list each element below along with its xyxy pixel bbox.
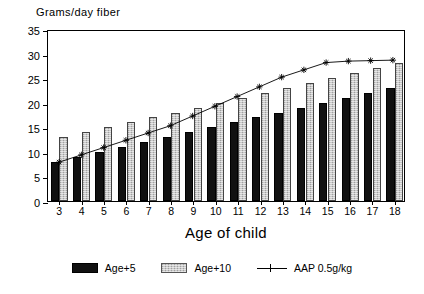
legend-label: AAP 0.5g/kg: [294, 262, 352, 274]
aap-star-marker: [78, 152, 84, 158]
aap-star-marker: [123, 137, 129, 143]
hatched-square-icon: [161, 263, 187, 273]
x-tick-label: 3: [56, 205, 62, 217]
y-tick-mark: [43, 203, 48, 204]
y-tick-label: 35: [28, 25, 40, 37]
x-tick-label: 15: [322, 205, 334, 217]
x-tick-label: 9: [191, 205, 197, 217]
aap-line-path: [59, 60, 393, 162]
aap-star-marker: [56, 159, 62, 165]
y-tick-label: 5: [34, 172, 40, 184]
x-tick-label: 16: [344, 205, 356, 217]
aap-star-marker: [100, 144, 106, 150]
x-tick-label: 10: [210, 205, 222, 217]
aap-star-marker: [234, 93, 240, 99]
x-tick-label: 7: [146, 205, 152, 217]
y-tick-label: 25: [28, 74, 40, 86]
x-tick-label: 4: [79, 205, 85, 217]
x-tick-label: 6: [123, 205, 129, 217]
aap-star-marker: [301, 67, 307, 73]
plot-area: 05101520253035 3456789101112131415161718: [47, 30, 405, 202]
x-tick-label: 5: [101, 205, 107, 217]
x-tick-label: 11: [233, 205, 244, 217]
legend-item[interactable]: AAP 0.5g/kg: [257, 262, 352, 274]
x-tick-label: 12: [255, 205, 267, 217]
y-tick-label: 15: [28, 123, 40, 135]
aap-star-marker: [390, 57, 396, 63]
aap-star-marker: [145, 130, 151, 136]
legend-label: Age+10: [194, 262, 231, 274]
y-tick-label: 20: [28, 99, 40, 111]
aap-star-marker: [189, 113, 195, 119]
x-tick-label: 17: [367, 205, 379, 217]
legend-item[interactable]: Age+5: [72, 262, 136, 274]
y-tick-label: 0: [34, 197, 40, 209]
x-tick-label: 13: [277, 205, 289, 217]
line-star-icon: [257, 263, 287, 273]
x-tick-label: 14: [299, 205, 311, 217]
aap-star-marker: [278, 74, 284, 80]
legend-label: Age+5: [105, 262, 136, 274]
chart-legend: Age+5Age+10AAP 0.5g/kg: [0, 262, 424, 274]
aap-star-marker: [345, 58, 351, 64]
x-tick-label: 8: [168, 205, 174, 217]
aap-star-marker: [323, 59, 329, 65]
aap-star-marker: [212, 103, 218, 109]
aap-line-series: [48, 31, 404, 201]
aap-star-marker: [167, 123, 173, 129]
chart-figure: Grams/day fiber 05101520253035 345678910…: [0, 0, 424, 294]
legend-item[interactable]: Age+10: [161, 262, 231, 274]
y-axis-title: Grams/day fiber: [36, 6, 120, 18]
x-tick-label: 18: [389, 205, 401, 217]
black-square-icon: [72, 263, 98, 273]
x-axis-title: Age of child: [47, 224, 405, 241]
plot-inner: 05101520253035 3456789101112131415161718: [48, 31, 404, 201]
aap-star-marker: [256, 84, 262, 90]
y-tick-label: 10: [28, 148, 40, 160]
y-tick-label: 30: [28, 50, 40, 62]
aap-star-marker: [367, 57, 373, 63]
